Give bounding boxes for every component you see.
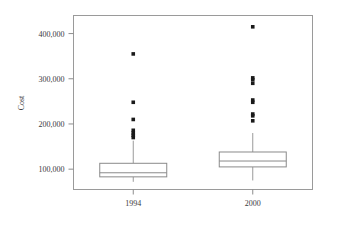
- y-tick-label: 400,000: [39, 30, 65, 39]
- outlier-point: [251, 119, 255, 123]
- outlier-point: [251, 76, 255, 80]
- box-iqr-rect: [219, 152, 286, 167]
- outlier-point: [131, 128, 135, 132]
- outlier-point: [251, 81, 255, 85]
- outlier-point: [251, 25, 255, 29]
- x-tick-label-1994: 1994: [125, 199, 141, 208]
- y-axis-title-text: Cost: [17, 95, 26, 110]
- y-axis-title: Cost: [17, 95, 26, 110]
- outlier-point: [131, 100, 135, 104]
- boxplot-figure: 100,000200,000300,000400,000 Cost 199420…: [0, 0, 339, 226]
- boxplot-svg: 100,000200,000300,000400,000 Cost 199420…: [0, 0, 339, 226]
- y-tick-label: 200,000: [39, 120, 65, 129]
- x-tick-label-2000: 2000: [245, 199, 261, 208]
- outlier-point: [251, 112, 255, 116]
- y-tick-label: 300,000: [39, 75, 65, 84]
- outlier-point: [131, 118, 135, 122]
- y-tick-label: 100,000: [39, 165, 65, 174]
- box-iqr-rect: [100, 163, 167, 177]
- outlier-point: [251, 98, 255, 102]
- outlier-point: [131, 52, 135, 56]
